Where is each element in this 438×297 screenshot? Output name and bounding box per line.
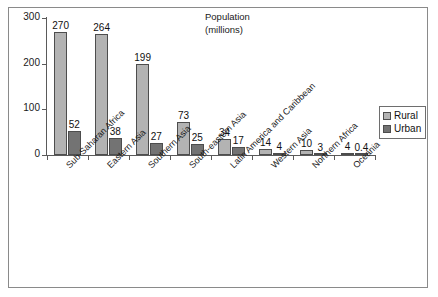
x-tick-2 (129, 156, 130, 160)
x-tick-1 (88, 156, 89, 160)
x-tick-4 (211, 156, 212, 160)
legend-item-urban[interactable]: Urban (383, 122, 421, 135)
bar-value-rural-7: 4 (345, 141, 351, 152)
legend-label-rural: Rural (394, 111, 418, 121)
y-tick-label-200: 200 (10, 57, 40, 68)
bar-value-rural-2: 199 (134, 52, 151, 63)
y-tick-label-wrap-300: 300 (8, 18, 40, 19)
legend-swatch-urban-icon (383, 125, 391, 133)
bar-rural-6[interactable] (300, 150, 313, 155)
y-tick-label-300: 300 (10, 11, 40, 22)
bar-rural-5[interactable] (259, 149, 272, 155)
y-tick-label-wrap-0: 0 (8, 155, 40, 156)
x-tick-8 (375, 156, 376, 160)
y-tick-label-100: 100 (10, 102, 40, 113)
bar-value-urban-4: 17 (233, 135, 244, 146)
bar-rural-7[interactable] (341, 153, 354, 155)
legend-label-urban: Urban (394, 124, 421, 134)
y-tick-label-0: 0 (10, 148, 40, 159)
chart-legend: Rural Urban (379, 106, 426, 139)
bar-value-rural-3: 73 (178, 110, 189, 121)
y-tick-label-wrap-200: 200 (8, 64, 40, 65)
legend-swatch-rural-icon (383, 112, 391, 120)
legend-item-rural[interactable]: Rural (383, 109, 421, 122)
y-tick-label-wrap-100: 100 (8, 109, 40, 110)
x-tick-3 (170, 156, 171, 160)
x-tick-7 (334, 156, 335, 160)
chart-figure: Population (millions) 0100200300 2705226… (0, 0, 438, 297)
bar-rural-0[interactable] (54, 32, 67, 155)
x-tick-0 (47, 156, 48, 160)
bar-value-urban-0: 52 (69, 119, 80, 130)
bar-value-rural-1: 264 (93, 22, 110, 33)
x-tick-6 (293, 156, 294, 160)
bar-value-rural-0: 270 (52, 20, 69, 31)
bar-value-urban-3: 25 (192, 132, 203, 143)
x-tick-5 (252, 156, 253, 160)
bar-value-urban-2: 27 (151, 131, 162, 142)
